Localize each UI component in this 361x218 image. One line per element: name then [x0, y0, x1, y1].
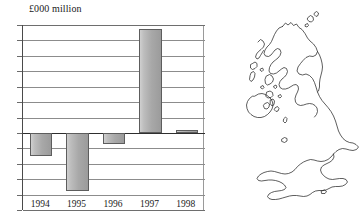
x-axis-tick-label: 1996 — [104, 199, 123, 209]
figure: £000 million 76543210–1–2–3–4–5 19941995… — [0, 0, 361, 218]
chart-title: £000 million — [29, 3, 82, 14]
bar — [103, 133, 126, 145]
bar-chart: £000 million 76543210–1–2–3–4–5 19941995… — [0, 0, 215, 218]
gridline — [23, 210, 205, 211]
gridline — [23, 56, 205, 57]
gridline — [23, 118, 205, 119]
bar — [176, 130, 199, 133]
gridline — [23, 164, 205, 165]
x-axis-tick-label: 1997 — [140, 199, 159, 209]
x-axis-tick-label: 1994 — [31, 199, 50, 209]
bar — [30, 133, 53, 156]
x-axis-tick-label: 1995 — [67, 199, 86, 209]
bar — [139, 29, 162, 133]
map-panel — [222, 0, 361, 218]
gridline — [23, 195, 205, 196]
gridline — [23, 71, 205, 72]
bar — [66, 133, 89, 192]
x-axis-tick-label: 1998 — [176, 199, 195, 209]
gridline — [23, 87, 205, 88]
y-axis-tick-mark — [17, 210, 22, 211]
united-kingdom-outline-map — [222, 0, 361, 218]
plot-area — [22, 25, 204, 210]
gridline — [23, 25, 205, 26]
gridline — [23, 40, 205, 41]
gridline — [23, 102, 205, 103]
gridline — [23, 179, 205, 180]
